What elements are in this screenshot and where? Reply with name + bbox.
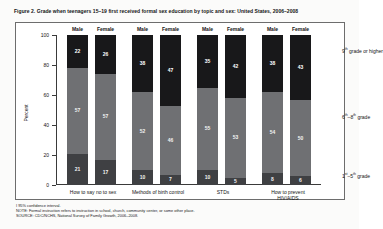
bar-value: 46 xyxy=(168,138,174,143)
legend-rest2: grade xyxy=(356,114,370,120)
y-axis-label: Percent xyxy=(23,104,29,121)
bar-value: 55 xyxy=(205,126,211,131)
legend-label-9th-or-higher: 9th grade or higher xyxy=(342,48,383,54)
category-label-stds: STDs xyxy=(195,189,251,195)
y-tick-label-60: 60 xyxy=(43,92,49,98)
bar-value: 42 xyxy=(233,64,239,69)
bar-segment-6th-8th[interactable]: 57 xyxy=(67,68,88,154)
bar-value: 5 xyxy=(234,179,237,184)
bar-segment-1st-5th[interactable]: 6 xyxy=(290,176,311,185)
sex-label-male: Male xyxy=(67,26,88,32)
bar-segment-6th-8th[interactable]: 57 xyxy=(95,74,116,160)
stacked-bar[interactable]: 26 57 17 xyxy=(95,35,116,185)
category-label-methods-of-birth-control: Methods of birth control xyxy=(130,189,186,195)
y-tick-40: 40 xyxy=(52,125,56,126)
legend-rest: grade or higher xyxy=(348,48,383,54)
bar-group-how-to-say-no-to-sex: Male Female 22 57 21 26 57 17 How to say… xyxy=(65,35,121,185)
y-tick-label-80: 80 xyxy=(43,62,49,68)
note-source: SOURCE: CDC/NCHS, National Survey of Fam… xyxy=(16,213,346,218)
y-tick-20: 20 xyxy=(52,155,56,156)
bar-value: 38 xyxy=(270,61,276,66)
bar-value: 10 xyxy=(140,175,146,180)
bar-segment-1st-5th[interactable]: 21 xyxy=(67,154,88,186)
sex-label-male: Male xyxy=(132,26,153,32)
category-label-how-to-say-no-to-sex: How to say no to sex xyxy=(65,189,121,195)
sex-label-male: Male xyxy=(262,26,283,32)
y-tick-label-100: 100 xyxy=(41,32,49,38)
bar-segment-9th-or-higher[interactable]: 38 xyxy=(132,35,153,92)
y-tick-80: 80 xyxy=(52,65,56,66)
bar-segment-9th-or-higher[interactable]: 22 xyxy=(67,35,88,68)
bar-segment-1st-5th[interactable]: 10 xyxy=(197,170,218,185)
stacked-bar[interactable]: 43 50 6 xyxy=(290,35,311,185)
bar-value: 50 xyxy=(298,136,304,141)
y-axis-line xyxy=(56,35,57,185)
figure-notes: I 95% confidence interval. NOTE: Formal … xyxy=(16,203,346,219)
bar-value: 52 xyxy=(140,129,146,134)
bar-segment-6th-8th[interactable]: 46 xyxy=(160,106,181,175)
bar-value: 53 xyxy=(233,135,239,140)
bar-segment-1st-5th[interactable]: 7 xyxy=(160,175,181,186)
bar-segment-9th-or-higher[interactable]: 35 xyxy=(197,35,218,88)
bar-segment-6th-8th[interactable]: 54 xyxy=(262,92,283,173)
legend-rest2: grade xyxy=(356,173,370,179)
stacked-bar[interactable]: 38 54 8 xyxy=(262,35,283,185)
bar-segment-1st-5th[interactable]: 17 xyxy=(95,160,116,186)
stacked-bar[interactable]: 38 52 10 xyxy=(132,35,153,185)
plot-area: 100 80 60 40 20 0 Percent Male Female xyxy=(56,35,296,185)
chart-panel: 100 80 60 40 20 0 Percent Male Female xyxy=(15,22,345,200)
bar-value: 7 xyxy=(169,177,172,182)
bar-segment-9th-or-higher[interactable]: 47 xyxy=(160,35,181,106)
y-tick-100: 100 xyxy=(52,35,56,36)
bar-segment-1st-5th[interactable]: 10 xyxy=(132,170,153,185)
bar-value: 35 xyxy=(205,59,211,64)
bar-value: 6 xyxy=(299,178,302,183)
bar-segment-1st-5th[interactable]: 8 xyxy=(262,173,283,185)
bar-segment-6th-8th[interactable]: 55 xyxy=(197,88,218,171)
bar-value: 8 xyxy=(271,177,274,182)
bar-value: 57 xyxy=(75,108,81,113)
sex-label-female: Female xyxy=(160,26,181,32)
legend-label-6th-8th: 6th–8th grade xyxy=(342,114,370,120)
bar-value: 38 xyxy=(140,61,146,66)
bar-segment-9th-or-higher[interactable]: 43 xyxy=(290,35,311,100)
bar-segment-6th-8th[interactable]: 50 xyxy=(290,100,311,176)
bar-value: 57 xyxy=(103,114,109,119)
bar-value: 10 xyxy=(205,175,211,180)
bar-value: 47 xyxy=(168,68,174,73)
stacked-bar[interactable]: 22 57 21 xyxy=(67,35,88,185)
sex-label-male: Male xyxy=(197,26,218,32)
figure-title: Figure 2. Grade when teenagers 15–19 fir… xyxy=(14,8,350,14)
stacked-bar[interactable]: 35 55 10 xyxy=(197,35,218,185)
bar-segment-6th-8th[interactable]: 52 xyxy=(132,92,153,170)
y-tick-label-0: 0 xyxy=(46,182,49,188)
bar-value: 17 xyxy=(103,170,109,175)
bar-segment-9th-or-higher[interactable]: 42 xyxy=(225,35,246,98)
bar-group-stds: Male Female 35 55 10 42 53 5 STDs xyxy=(195,35,251,185)
bar-segment-9th-or-higher[interactable]: 38 xyxy=(262,35,283,92)
bar-value: 26 xyxy=(103,52,109,57)
stacked-bar[interactable]: 42 53 5 xyxy=(225,35,246,185)
category-label-how-to-prevent-hiv-aids: How to prevent HIV/AIDS xyxy=(260,189,316,201)
bar-group-methods-of-birth-control: Male Female 38 52 10 47 46 7 Methods of … xyxy=(130,35,186,185)
legend-label-1st-5th: 1st–5th grade xyxy=(342,173,370,179)
sex-label-female: Female xyxy=(290,26,311,32)
bar-value: 43 xyxy=(298,65,304,70)
y-tick-60: 60 xyxy=(52,95,56,96)
stacked-bar[interactable]: 47 46 7 xyxy=(160,35,181,185)
bar-value: 54 xyxy=(270,130,276,135)
sex-label-female: Female xyxy=(225,26,246,32)
bar-value: 22 xyxy=(75,49,81,54)
y-tick-0: 0 xyxy=(52,185,56,186)
bar-segment-1st-5th[interactable]: 5 xyxy=(225,178,246,186)
sex-label-female: Female xyxy=(95,26,116,32)
bar-segment-9th-or-higher[interactable]: 26 xyxy=(95,35,116,74)
y-tick-label-40: 40 xyxy=(43,122,49,128)
bar-segment-6th-8th[interactable]: 53 xyxy=(225,98,246,178)
bar-group-how-to-prevent-hiv-aids: Male Female 38 54 8 43 50 6 How to preve… xyxy=(260,35,316,185)
y-tick-label-20: 20 xyxy=(43,152,49,158)
bar-value: 21 xyxy=(75,167,81,172)
